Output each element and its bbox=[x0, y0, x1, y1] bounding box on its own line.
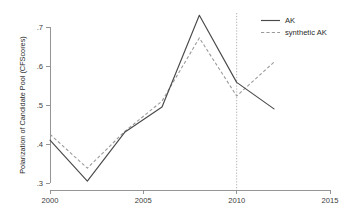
y-tick-label: .7 bbox=[37, 23, 43, 32]
x-tick-label: 2000 bbox=[42, 196, 59, 205]
y-tick-label: .5 bbox=[37, 101, 43, 110]
x-axis: 2000 2005 2010 2015 bbox=[42, 190, 339, 205]
y-tick-group: .7 .6 .5 .4 .3 bbox=[37, 23, 50, 188]
chart-legend: AK synthetic AK bbox=[261, 16, 327, 37]
x-tick-label: 2005 bbox=[135, 196, 152, 205]
legend-label-synthetic-ak: synthetic AK bbox=[285, 28, 327, 37]
series-line-synthetic-ak bbox=[50, 38, 274, 168]
y-tick-label: .6 bbox=[37, 62, 43, 71]
x-tick-label: 2010 bbox=[228, 196, 245, 205]
y-tick-label: .4 bbox=[37, 140, 43, 149]
y-axis-title: Polarization of Candidate Pool (CFScores… bbox=[18, 36, 27, 174]
series-line-ak bbox=[50, 15, 274, 181]
chart-container: Polarization of Candidate Pool (CFScores… bbox=[0, 0, 350, 211]
x-tick-label: 2015 bbox=[322, 196, 339, 205]
synthetic-control-line-chart: Polarization of Candidate Pool (CFScores… bbox=[0, 0, 350, 211]
y-tick-label: .3 bbox=[37, 179, 43, 188]
legend-label-ak: AK bbox=[285, 16, 295, 25]
y-axis: .7 .6 .5 .4 .3 bbox=[37, 23, 50, 188]
x-tick-group: 2000 2005 2010 2015 bbox=[42, 190, 339, 205]
